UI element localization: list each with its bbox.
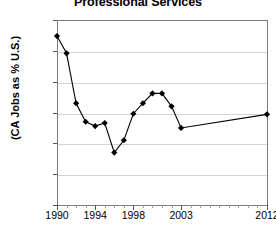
- chart-graphics: [0, 0, 276, 237]
- x-axis-tick-label: 1994: [83, 210, 106, 221]
- data-point-marker: [54, 33, 60, 39]
- x-axis-tick-mark: [172, 205, 173, 208]
- x-axis-tick-label: 2012: [255, 210, 276, 221]
- x-axis-tick-mark: [210, 205, 211, 208]
- data-point-marker: [264, 111, 270, 117]
- x-axis-tick-mark: [229, 205, 230, 208]
- x-axis-tick-mark: [219, 205, 220, 208]
- data-point-marker: [92, 123, 98, 129]
- x-axis-tick-mark: [257, 205, 258, 208]
- data-point-marker: [73, 100, 79, 106]
- x-axis-tick-mark: [86, 205, 87, 208]
- x-axis-tick-mark: [200, 205, 201, 208]
- x-axis-tick-label: 2003: [169, 210, 192, 221]
- y-axis-tick-mark: [53, 113, 57, 114]
- x-axis-tick-mark: [162, 205, 163, 208]
- y-axis-tick-mark: [53, 82, 57, 83]
- y-axis-tick-mark: [53, 143, 57, 144]
- x-axis-tick-mark: [152, 205, 153, 208]
- chart-container: Professional Services (CA Jobs as % U.S.…: [0, 0, 276, 237]
- data-point-marker: [83, 119, 89, 125]
- x-axis-tick-mark: [124, 205, 125, 208]
- x-axis-tick-mark: [238, 205, 239, 208]
- x-axis-tick-mark: [67, 205, 68, 208]
- y-axis-tick-mark: [53, 51, 57, 52]
- x-axis-tick-label: 1990: [45, 210, 68, 221]
- data-point-marker: [178, 125, 184, 131]
- y-axis-tick-mark: [53, 20, 57, 21]
- data-point-marker: [102, 120, 108, 126]
- x-axis-tick-mark: [114, 205, 115, 208]
- data-point-marker: [63, 50, 69, 56]
- x-axis-tick-mark: [143, 205, 144, 208]
- y-axis-tick-mark: [53, 174, 57, 175]
- x-axis-tick-mark: [105, 205, 106, 208]
- x-axis-tick-label: 1998: [122, 210, 145, 221]
- x-axis-tick-mark: [76, 205, 77, 208]
- x-axis-tick-mark: [191, 205, 192, 208]
- x-axis-tick-mark: [248, 205, 249, 208]
